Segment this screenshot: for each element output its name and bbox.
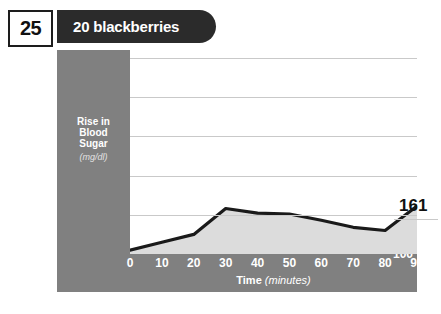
- item-number-box: 25: [8, 10, 53, 47]
- x-tick-10: 10: [155, 256, 168, 270]
- gridline-y-150: [130, 215, 417, 216]
- plot-area: [130, 50, 417, 254]
- chart-body: Rise in Blood Sugar (mg/dl) 100150200250…: [57, 50, 417, 292]
- y-axis-unit: (mg/dl): [57, 152, 130, 163]
- data-series-svg: [130, 50, 417, 254]
- gridline-y-250: [130, 136, 417, 137]
- chart-header: 25 20 blackberries: [0, 0, 441, 50]
- y-axis-label-line2: Blood: [57, 127, 130, 138]
- x-tick-20: 20: [187, 256, 200, 270]
- gridline-y-200: [130, 176, 417, 177]
- x-tick-30: 30: [219, 256, 232, 270]
- x-tick-40: 40: [251, 256, 264, 270]
- x-tick-0: 0: [127, 256, 134, 270]
- gridline-y-350: [130, 58, 417, 59]
- y-axis-label-line3: Sugar: [57, 138, 130, 149]
- x-axis-unit: (minutes): [265, 274, 311, 286]
- x-tick-50: 50: [283, 256, 296, 270]
- item-number: 25: [20, 17, 41, 40]
- y-axis-label: Rise in Blood Sugar (mg/dl): [57, 116, 130, 163]
- x-tick-80: 80: [378, 256, 391, 270]
- end-value-label: 161: [399, 196, 427, 216]
- x-axis-label-text: Time: [236, 274, 261, 286]
- x-axis-label: Time (minutes): [130, 274, 417, 286]
- x-tick-60: 60: [315, 256, 328, 270]
- chart-title: 20 blackberries: [57, 18, 179, 35]
- x-axis-panel: [57, 254, 417, 292]
- chart-page: 25 20 blackberries Rise in Blood Sugar (…: [0, 0, 441, 314]
- end-label-underline: [394, 219, 438, 220]
- y-axis-label-line1: Rise in: [57, 116, 130, 127]
- x-tick-90: 90: [410, 256, 423, 270]
- title-banner: 20 blackberries: [57, 10, 216, 43]
- gridline-y-300: [130, 97, 417, 98]
- x-tick-70: 70: [347, 256, 360, 270]
